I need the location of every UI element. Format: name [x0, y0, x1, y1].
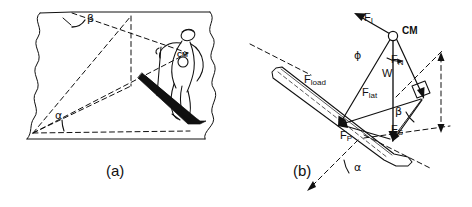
ski-b [272, 67, 412, 166]
dash-fallline-lower-left [310, 140, 358, 188]
caption-b: (b) [293, 163, 311, 178]
right-vertical-arrow-up [438, 52, 445, 61]
alpha-label-b: α [354, 162, 361, 173]
ski-inner-edge [281, 69, 392, 155]
panel-b-drawing [236, 0, 472, 207]
cm-circle-b [388, 31, 397, 40]
ski-a [138, 73, 206, 124]
cm-circle-a [178, 57, 188, 67]
cm-label-a: CM [177, 51, 188, 58]
cm-label-b: CM [402, 26, 418, 36]
Fload-symbol: F [304, 73, 311, 85]
FN-subscript: N [398, 58, 404, 67]
skier-hand-front [156, 48, 159, 54]
beta-leader-a [63, 18, 71, 25]
force-label-Fload: Fload [304, 74, 326, 87]
dash-upper-left [250, 44, 311, 75]
caption-a: (a) [106, 163, 124, 178]
alpha-arc-b [344, 160, 349, 173]
beta-label-a: β [87, 13, 94, 24]
force-label-FN: FN [391, 54, 404, 67]
dash-lower-right [364, 135, 432, 169]
force-label-FI: FI [364, 12, 373, 25]
torn-right-edge [205, 12, 216, 139]
force-label-FP: FP [340, 130, 352, 143]
figure-container: β α CM (a) [0, 0, 472, 207]
FS-subscript: S [398, 128, 403, 137]
skier-torso-back [187, 42, 194, 92]
FI-symbol: F [364, 11, 371, 23]
beta-arc-a [72, 20, 85, 27]
FP-symbol: F [340, 129, 347, 141]
dash-diag-left-up [33, 16, 131, 133]
right-vertical-arrow-down [438, 124, 445, 133]
alpha-label-a: α [55, 110, 62, 121]
line-Flat [342, 99, 421, 124]
dash-base-line [33, 131, 190, 133]
skier-figure [138, 28, 206, 124]
fallline-arrow [307, 181, 316, 191]
alpha-arc-a [62, 120, 64, 131]
FS-symbol: F [391, 123, 398, 135]
FI-subscript: I [371, 16, 373, 25]
slope-top-edge [40, 12, 210, 13]
force-label-FS: FS [391, 124, 403, 137]
torn-left-edge [27, 13, 40, 139]
dash-diag-left-mid [33, 86, 131, 133]
FP-subscript: P [347, 134, 352, 143]
line-Fload [341, 38, 391, 122]
Flat-symbol: F [362, 86, 369, 98]
phi-label-b: ϕ [354, 50, 361, 61]
beta-label-b: β [395, 106, 402, 117]
force-label-Flat: Flat [362, 87, 377, 100]
Fload-subscript: load [311, 78, 326, 87]
Flat-subscript: lat [369, 91, 377, 100]
skier-leg-back2 [188, 91, 190, 113]
force-label-W: W [382, 68, 392, 79]
FN-symbol: F [391, 53, 398, 65]
dash-right-base [364, 126, 450, 138]
